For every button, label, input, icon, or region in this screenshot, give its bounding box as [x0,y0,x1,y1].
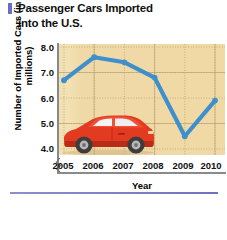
x-tick-2010: 2010 [194,160,227,171]
x-axis-title: Year [58,180,226,191]
x-tick-2008: 2008 [136,160,170,171]
x-tick-2006: 2006 [76,160,110,171]
data-point-2009 [182,133,188,139]
chart-svg [58,44,225,155]
y-tick-8: 8.0 [24,42,54,53]
bottom-divider [10,192,218,194]
data-point-2007 [122,59,128,65]
data-point-2006 [91,54,97,60]
y-tick-5: 5.0 [24,118,54,129]
plot-area [58,44,225,155]
data-point-2010 [212,98,218,104]
data-point-2005 [61,77,67,83]
y-tick-4: 4.0 [24,143,54,154]
data-point-2008 [152,75,158,81]
x-tick-2007: 2007 [106,160,140,171]
y-tick-6: 6.0 [24,93,54,104]
y-axis-line [57,43,59,173]
x-axis-tick-labels: 2005 2006 2007 2008 2009 2010 [46,160,227,174]
x-tick-2005: 2005 [46,160,80,171]
y-tick-7: 7.0 [24,67,54,78]
